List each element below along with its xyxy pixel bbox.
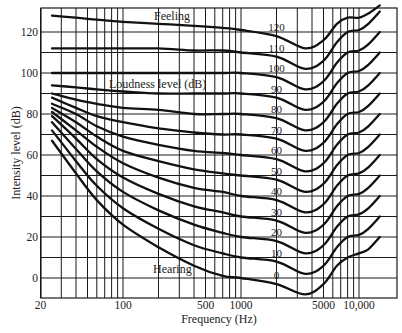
phon-label: 60	[271, 144, 283, 156]
feeling-annotation: Feeling	[154, 9, 190, 23]
y-tick-label: 80	[27, 108, 39, 120]
phon-label: 100	[268, 62, 285, 74]
y-tick-label: 100	[21, 67, 39, 79]
phon-label: 40	[271, 185, 283, 197]
x-tick-label: 1000	[230, 299, 253, 311]
x-tick-label: 20	[35, 299, 47, 311]
y-tick-label: 40	[27, 190, 39, 202]
y-tick-label: 120	[21, 26, 39, 38]
y-tick-label: 20	[27, 231, 39, 243]
phon-label: 120	[268, 21, 285, 33]
phon-label: 50	[271, 165, 283, 177]
phon-label: 10	[271, 247, 283, 259]
phon-label: 110	[268, 42, 285, 54]
equal-loudness-chart: 0102030405060708090100110120 20100500100…	[0, 0, 402, 333]
loudness-curves	[52, 5, 380, 294]
loudness-level-annotation: Loudness level (dB)	[109, 77, 206, 91]
phon-label: 20	[271, 226, 283, 238]
y-tick-label: 60	[27, 149, 39, 161]
y-tick-label: 0	[32, 272, 38, 284]
phon-label: 30	[271, 206, 283, 218]
x-tick-label: 10,000	[343, 299, 375, 312]
x-axis-ticks: 201005001000500010,000	[35, 299, 375, 312]
hearing-annotation: Hearing	[153, 262, 192, 276]
x-tick-label: 5000	[312, 299, 335, 311]
loudness-curve-80	[52, 73, 380, 130]
phon-label: 80	[271, 103, 283, 115]
y-axis-ticks: 020406080100120	[21, 26, 39, 284]
x-tick-label: 100	[114, 299, 132, 311]
x-axis-label: Frequency (Hz)	[181, 312, 257, 326]
loudness-curve-100	[52, 32, 380, 89]
phon-label: 90	[271, 83, 283, 95]
phon-label: 0	[274, 269, 280, 281]
loudness-curve-90	[52, 53, 380, 110]
phon-label: 70	[271, 124, 283, 136]
y-axis-label: Intensity level (dB)	[9, 106, 23, 199]
loudness-curve-120	[52, 5, 380, 48]
loudness-curve-20	[52, 122, 380, 253]
loudness-curve-70	[52, 94, 380, 151]
x-tick-label: 500	[197, 299, 215, 311]
